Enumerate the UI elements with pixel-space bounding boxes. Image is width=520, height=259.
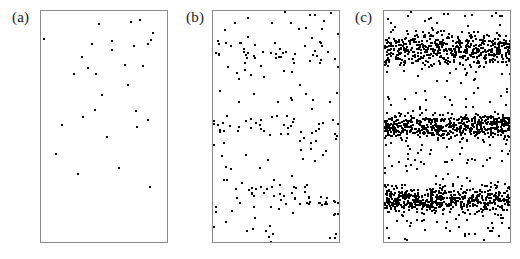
data-point (227, 66, 229, 68)
data-point (236, 197, 238, 199)
data-point (466, 219, 468, 221)
data-point (485, 206, 487, 208)
data-point (406, 190, 408, 192)
data-point (455, 46, 457, 48)
data-point (435, 125, 437, 127)
data-point (491, 230, 493, 232)
data-point (490, 131, 492, 133)
data-point (489, 189, 491, 191)
data-point (417, 55, 419, 57)
data-point (334, 133, 336, 135)
data-point (415, 201, 417, 203)
data-point (501, 45, 503, 47)
data-point (291, 99, 293, 101)
data-point (469, 54, 471, 56)
data-point (441, 202, 443, 204)
data-point (420, 52, 422, 54)
data-point (438, 206, 440, 208)
data-point (455, 51, 457, 53)
data-point (61, 124, 63, 126)
data-point (439, 127, 441, 129)
data-point (485, 197, 487, 199)
data-point (384, 207, 386, 209)
data-point (446, 161, 448, 163)
data-point (505, 55, 507, 57)
data-point (396, 220, 398, 222)
data-point (318, 128, 320, 130)
data-point (268, 236, 270, 238)
data-point (485, 62, 487, 64)
data-point (399, 199, 401, 201)
data-point (449, 130, 451, 132)
data-point (469, 213, 471, 215)
data-point (477, 51, 479, 53)
data-point (497, 50, 499, 52)
data-point (458, 118, 460, 120)
data-point (411, 121, 413, 123)
data-point (472, 188, 474, 190)
data-point (460, 122, 462, 124)
data-point (213, 226, 215, 228)
data-point (234, 22, 236, 24)
data-point (437, 31, 439, 33)
data-point (231, 210, 233, 212)
data-point (447, 13, 449, 15)
data-point (409, 43, 411, 45)
data-point (254, 57, 256, 59)
data-point (479, 131, 481, 133)
data-point (325, 150, 327, 152)
data-point (386, 194, 388, 196)
data-point (339, 189, 340, 191)
data-point (495, 208, 497, 210)
data-point (396, 187, 398, 189)
data-point (410, 49, 412, 51)
data-point (488, 40, 490, 42)
data-point (404, 55, 406, 57)
data-point (461, 147, 463, 149)
data-point (404, 98, 406, 100)
data-point (425, 109, 427, 111)
data-point (476, 200, 478, 202)
data-point (426, 199, 428, 201)
data-point (334, 237, 336, 239)
data-point (470, 133, 472, 135)
data-point (310, 142, 312, 144)
panel-label-a: (a) (12, 10, 29, 25)
data-point (441, 196, 443, 198)
data-point (130, 21, 132, 23)
data-point (469, 130, 471, 132)
data-point (439, 114, 441, 116)
data-point (509, 73, 511, 75)
data-point (238, 101, 240, 103)
data-point (506, 117, 508, 119)
data-point (439, 196, 441, 198)
data-point (230, 45, 232, 47)
data-point (501, 150, 503, 152)
data-point (472, 40, 474, 42)
data-point (449, 72, 451, 74)
data-point (469, 46, 471, 48)
data-point (496, 32, 498, 34)
data-point (219, 131, 221, 133)
data-point (465, 106, 467, 108)
data-point (436, 22, 438, 24)
data-point (419, 108, 421, 110)
data-point (468, 233, 470, 235)
data-point (388, 45, 390, 47)
data-point (402, 194, 404, 196)
data-point (397, 119, 399, 121)
data-point (460, 201, 462, 203)
data-point (466, 121, 468, 123)
data-point (459, 153, 461, 155)
data-point (478, 66, 480, 68)
data-point (480, 121, 482, 123)
data-point (502, 61, 504, 63)
data-point (409, 225, 411, 227)
data-point (484, 191, 486, 193)
data-point (218, 53, 220, 55)
data-point (423, 205, 425, 207)
data-point (436, 204, 438, 206)
data-point (489, 230, 491, 232)
data-point (416, 122, 418, 124)
data-point (246, 57, 248, 59)
